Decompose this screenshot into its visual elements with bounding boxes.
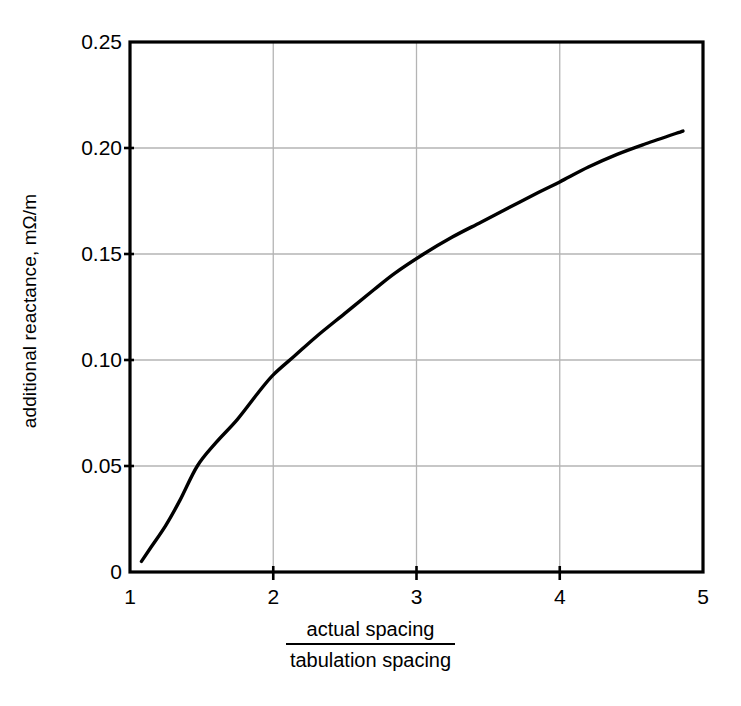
x-tick-label-3: 3: [397, 586, 437, 607]
x-axis-labels: 1 2 3 4 5: [0, 0, 741, 706]
x-axis-title: actual spacing tabulation spacing: [0, 616, 741, 673]
chart-figure: 0.25 0.20 0.15 0.10 0.05 0 1 2 3 4 5 add…: [0, 0, 741, 706]
x-axis-title-numerator: actual spacing: [286, 616, 455, 642]
x-tick-label-2: 2: [253, 586, 293, 607]
fraction-bar: [286, 643, 455, 645]
x-tick-label-5: 5: [683, 586, 723, 607]
x-tick-label-4: 4: [540, 586, 580, 607]
x-tick-label-1: 1: [110, 586, 150, 607]
x-axis-title-denominator: tabulation spacing: [286, 647, 455, 673]
